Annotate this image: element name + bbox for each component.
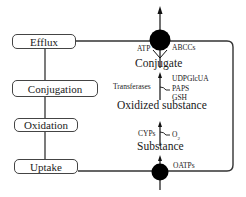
cyps-label: CYPs xyxy=(138,129,156,138)
step-efflux: Efflux xyxy=(12,34,76,49)
step-label: Efflux xyxy=(30,36,58,48)
conjugate-label: Conjugate xyxy=(135,57,182,69)
cofactor-udpglcua: UDPGlcUA xyxy=(172,74,209,83)
o2-label: O2 xyxy=(172,130,180,141)
oxidation-arrow-icon xyxy=(158,121,162,127)
atp-label: ATP xyxy=(137,44,150,53)
step-oxidation: Oxidation xyxy=(14,118,78,132)
oatps-label: OATPs xyxy=(173,161,195,170)
oatp-transporter-icon xyxy=(152,164,169,181)
step-label: Uptake xyxy=(30,161,62,173)
oxidized-substance-label: Oxidized substance xyxy=(117,99,207,111)
uptake-arrow-icon xyxy=(158,155,162,161)
step-conjugation: Conjugation xyxy=(12,80,98,97)
step-label: Conjugation xyxy=(28,83,82,95)
substance-label: Substance xyxy=(137,140,184,152)
cofactor-paps: PAPS xyxy=(172,84,189,93)
efflux-arrow-icon xyxy=(158,6,163,14)
step-label: Oxidation xyxy=(24,119,68,131)
transferases-label: Transferases xyxy=(113,82,151,91)
step-uptake: Uptake xyxy=(14,159,78,174)
abcc-transporter-icon xyxy=(150,30,171,51)
conjugation-arrow-icon xyxy=(158,72,162,78)
abccs-label: ABCCs xyxy=(172,43,195,52)
